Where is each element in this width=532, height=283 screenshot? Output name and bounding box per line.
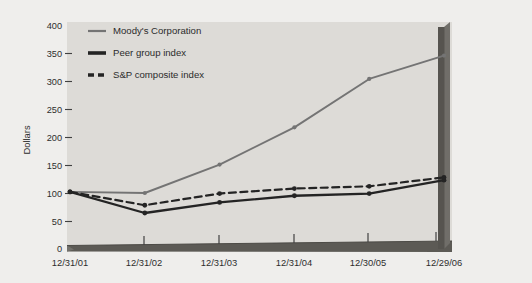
stock-performance-chart: 400 350 300 250 200 150 100 50 0 Dollars <box>0 0 532 283</box>
y-tick-label: 300 <box>47 77 62 87</box>
chart-canvas: 400 350 300 250 200 150 100 50 0 Dollars <box>0 0 532 283</box>
data-point-marker <box>292 125 296 129</box>
data-point-marker <box>142 203 147 208</box>
data-point-marker <box>68 189 73 194</box>
x-tick-label: 12/31/02 <box>126 257 163 268</box>
x-tick-label: 12/31/03 <box>201 257 238 268</box>
data-point-marker <box>367 77 371 81</box>
y-tick-label: 250 <box>47 105 62 115</box>
y-tick-label: 200 <box>47 133 62 143</box>
legend-label-peer: Peer group index <box>113 47 186 58</box>
y-tick-label: 50 <box>52 217 62 227</box>
y-tick-label: 0 <box>57 244 62 254</box>
data-point-marker <box>217 200 222 205</box>
x-tick-label: 12/30/05 <box>350 257 387 268</box>
data-point-marker <box>367 184 372 189</box>
y-tick-label: 350 <box>47 49 62 59</box>
x-tick-label: 12/31/01 <box>52 257 89 268</box>
data-point-marker <box>142 211 147 216</box>
data-point-marker <box>292 193 297 198</box>
data-point-marker <box>292 186 297 191</box>
y-tick-label: 100 <box>47 189 62 199</box>
legend-label-sp: S&P composite index <box>113 69 204 80</box>
legend-label-moodys: Moody's Corporation <box>113 25 201 36</box>
data-point-marker <box>218 163 222 167</box>
data-point-marker <box>367 191 372 196</box>
y-axis-title: Dollars <box>21 125 32 154</box>
x-tick-label: 12/31/04 <box>276 257 313 268</box>
data-point-marker <box>217 191 222 196</box>
y-tick-label: 150 <box>47 161 62 171</box>
data-point-marker <box>143 191 147 195</box>
data-point-marker <box>442 175 447 180</box>
y-tick-label: 400 <box>47 21 62 31</box>
x-tick-label: 12/29/06 <box>426 257 463 268</box>
data-point-marker <box>442 53 446 57</box>
